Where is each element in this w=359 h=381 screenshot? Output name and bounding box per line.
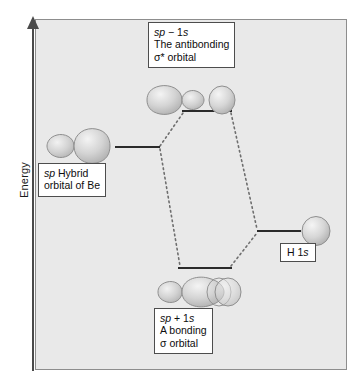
callout-h-1s: H 1s [280,243,316,262]
energy-axis-label: Energy [18,140,30,220]
callout-h-1s-prefix: H 1 [287,246,303,258]
orbital-energy-diagram: Energy [0,0,359,381]
callout-antibonding-line2: The antibonding [154,38,229,50]
level-bar-bonding [178,267,232,269]
callout-antibonding-line3: σ* orbital [154,51,229,63]
antibonding-orbital-graphic [146,84,236,116]
level-bar-h-1s [257,230,301,232]
callout-bonding-line3: σ orbital [160,337,207,349]
bonding-orbital-graphic [156,276,244,308]
callout-antibonding: sp − 1s The antibonding σ* orbital [148,22,235,68]
callout-bonding: sp + 1s A bonding σ orbital [154,308,213,354]
callout-sp-hybrid-line1: sp Hybrid [44,167,100,179]
energy-axis-line [32,26,34,371]
callout-bonding-line1: sp + 1s [160,312,207,324]
callout-h-1s-italic: s [303,246,308,258]
sp-hybrid-orbital-graphic [44,125,112,167]
callout-antibonding-line1: sp − 1s [154,26,229,38]
level-bar-sp-hybrid [115,146,160,148]
callout-sp-hybrid-line2: orbital of Be [44,179,100,191]
callout-sp-hybrid: sp Hybrid orbital of Be [38,163,106,197]
callout-bonding-line2: A bonding [160,324,207,336]
